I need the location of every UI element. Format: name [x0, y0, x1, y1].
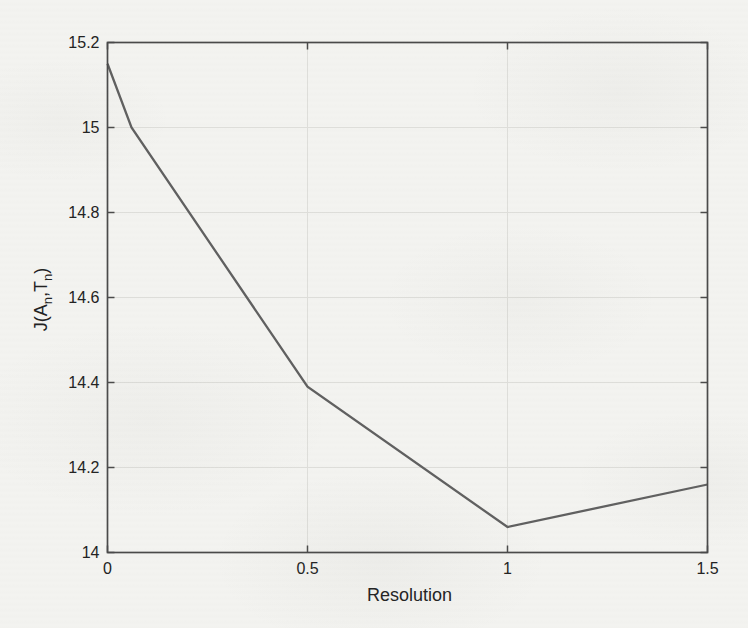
y-tick-label-15.2: 15.2 [68, 34, 99, 51]
x-axis-label: Resolution [367, 585, 452, 605]
y-tick-label-14.8: 14.8 [68, 204, 99, 221]
x-tick-label-0.5: 0.5 [296, 560, 318, 577]
data-series-line [108, 64, 708, 527]
x-tick-label-0: 0 [103, 560, 112, 577]
y-tick-label-14.2: 14.2 [68, 459, 99, 476]
y-axis-label: J(An,Tn) [31, 268, 55, 331]
y-tick-label-14.6: 14.6 [68, 289, 99, 306]
y-tick-label-14: 14 [82, 544, 100, 561]
y-tick-label-14.4: 14.4 [68, 374, 99, 391]
x-tick-label-1: 1 [503, 560, 512, 577]
scanned-figure-page: 00.511.51414.214.414.614.81515.2Resoluti… [0, 0, 748, 628]
y-tick-label-15: 15 [82, 119, 100, 136]
x-tick-label-1.5: 1.5 [696, 560, 718, 577]
line-chart: 00.511.51414.214.414.614.81515.2Resoluti… [0, 0, 748, 628]
